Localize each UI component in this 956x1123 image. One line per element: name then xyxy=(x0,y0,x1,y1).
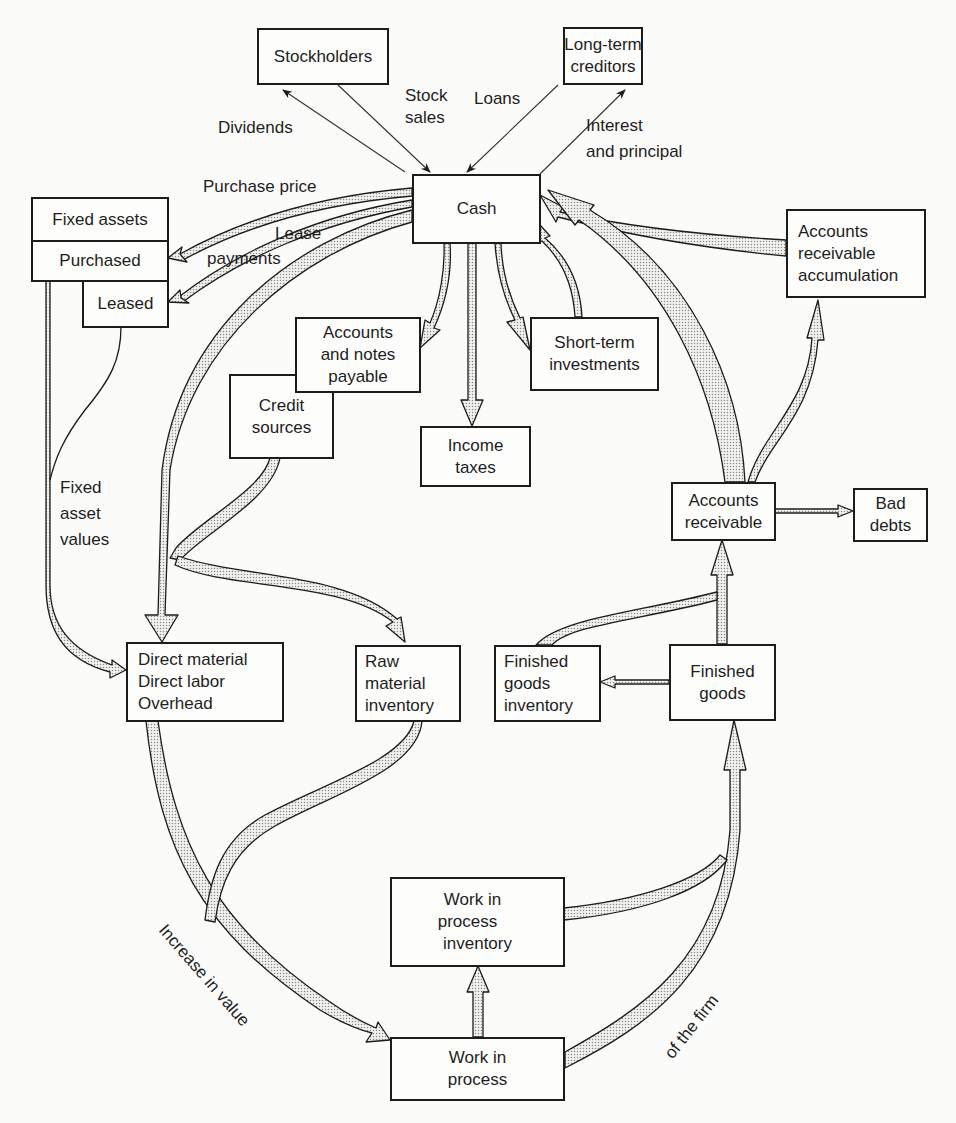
node-label: inventory xyxy=(504,695,573,717)
short-term-investments-to-cash-arrow xyxy=(538,225,582,317)
finished-goods-to-inventory-arrow xyxy=(600,676,669,688)
node-label: Short-term xyxy=(554,332,634,354)
node-wip-inventory: Work in process inventory xyxy=(390,877,565,967)
node-label: payable xyxy=(328,366,388,388)
label-interest-2: and principal xyxy=(586,141,682,163)
label-fixed-asset-values-2: asset xyxy=(60,503,101,525)
node-label: sources xyxy=(252,417,312,439)
label-purchase-price: Purchase price xyxy=(203,176,316,198)
node-label: Credit xyxy=(259,395,304,417)
label-fixed-asset-values-1: Fixed xyxy=(60,477,102,499)
node-label: Long-term xyxy=(564,34,641,56)
finished-goods-inventory-to-ar-flow xyxy=(536,592,717,645)
node-label: goods xyxy=(699,683,745,705)
node-work-in-process: Work in process xyxy=(390,1037,565,1101)
node-ar-accumulation: Accounts receivable accumulation xyxy=(786,209,926,298)
node-accounts-receivable: Accounts receivable xyxy=(671,482,776,541)
node-label: goods xyxy=(504,673,550,695)
node-label: investments xyxy=(549,354,640,376)
node-label: Stockholders xyxy=(274,46,372,68)
node-label: Finished xyxy=(504,651,568,673)
credit-sources-flow xyxy=(170,458,280,560)
bad-debts-arrow xyxy=(775,505,853,517)
node-label: material xyxy=(365,673,425,695)
node-label: Direct material xyxy=(138,649,248,671)
node-label: receivable xyxy=(685,512,763,534)
node-label: accumulation xyxy=(798,265,898,287)
node-label: Cash xyxy=(457,198,497,220)
wip-inventory-to-finished-goods-flow xyxy=(564,855,727,920)
cash-to-short-term-investments-arrow xyxy=(495,243,530,350)
node-label: Work in xyxy=(444,889,501,911)
node-short-term-investments: Short-term investments xyxy=(530,317,659,391)
node-label: taxes xyxy=(455,457,496,479)
cash-to-income-taxes-arrow xyxy=(461,243,483,426)
node-label: inventory xyxy=(443,933,512,955)
node-label: Bad xyxy=(875,493,905,515)
wip-to-wip-inventory-arrow xyxy=(467,966,489,1037)
node-income-taxes: Income taxes xyxy=(420,426,531,487)
label-stock-sales-2: sales xyxy=(405,107,445,129)
node-raw-material-inventory: Raw material inventory xyxy=(355,645,461,722)
cash-to-payables-arrow xyxy=(420,243,450,348)
node-label: Finished xyxy=(690,661,754,683)
node-accounts-notes-payable: Accounts and notes payable xyxy=(295,317,421,393)
cash-flow-diagram: Stockholders Long-term creditors Cash Fi… xyxy=(0,0,956,1123)
node-label: Direct labor xyxy=(138,671,225,693)
label-dividends: Dividends xyxy=(218,117,293,139)
node-fixed-assets: Fixed assets xyxy=(31,197,169,242)
node-label: Accounts xyxy=(323,322,393,344)
label-interest-1: Interest xyxy=(586,115,643,137)
label-stock-sales-1: Stock xyxy=(405,85,448,107)
node-stockholders: Stockholders xyxy=(257,28,389,85)
node-bad-debts: Bad debts xyxy=(853,488,928,542)
node-label: and notes xyxy=(321,344,396,366)
label-lease-payments-2: payments xyxy=(207,248,281,270)
node-label: Overhead xyxy=(138,693,213,715)
thin-flow-lines xyxy=(283,85,625,174)
node-label: process xyxy=(448,1069,508,1091)
label-loans: Loans xyxy=(474,88,520,110)
node-purchased: Purchased xyxy=(31,240,169,282)
node-label: creditors xyxy=(570,56,635,78)
node-label: Accounts xyxy=(798,221,868,243)
node-cash: Cash xyxy=(412,174,541,244)
node-label: inventory xyxy=(365,695,434,717)
finished-goods-to-accounts-receivable-arrow xyxy=(711,540,733,644)
node-label: Work in xyxy=(449,1047,506,1069)
node-label: Purchased xyxy=(59,250,140,272)
node-label: Leased xyxy=(98,293,154,315)
accounts-receivable-to-ar-accumulation-arrow xyxy=(748,300,824,482)
node-label: process xyxy=(438,911,498,933)
node-leased: Leased xyxy=(82,280,169,328)
node-finished-goods-inventory: Finished goods inventory xyxy=(494,645,601,722)
label-fixed-asset-values-3: values xyxy=(60,529,109,551)
to-raw-material-arrow xyxy=(175,556,405,642)
node-label: Income xyxy=(448,435,504,457)
node-long-term-creditors: Long-term creditors xyxy=(563,27,643,85)
node-direct-costs: Direct material Direct labor Overhead xyxy=(126,642,284,722)
node-label: Accounts xyxy=(689,490,759,512)
node-label: debts xyxy=(870,515,912,537)
node-label: receivable xyxy=(798,243,876,265)
label-lease-payments-1: Lease xyxy=(275,223,321,245)
node-label: Raw xyxy=(365,651,399,673)
node-finished-goods: Finished goods xyxy=(669,644,776,721)
node-label: Fixed assets xyxy=(52,209,147,231)
increase-in-value-arrow xyxy=(146,721,390,1042)
